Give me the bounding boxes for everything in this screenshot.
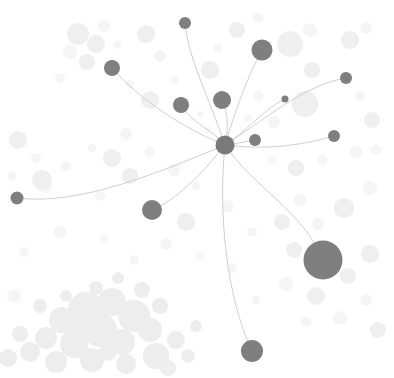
- background-halo: [8, 172, 16, 180]
- background-halo: [177, 213, 195, 231]
- cluster-blob: [160, 360, 176, 376]
- background-halo: [317, 155, 327, 165]
- background-halo: [196, 252, 204, 260]
- cluster-blob: [60, 290, 72, 302]
- background-halo: [355, 91, 365, 101]
- background-halo: [341, 31, 359, 49]
- background-halo: [145, 147, 155, 157]
- background-halo: [340, 268, 356, 284]
- background-halo: [214, 44, 222, 52]
- background-halo: [361, 245, 379, 263]
- background-halo: [370, 322, 386, 338]
- background-halo: [303, 23, 317, 37]
- background-halo: [114, 41, 122, 49]
- cluster-blob: [99, 343, 117, 361]
- graph-node[interactable]: [104, 60, 120, 76]
- graph-edge: [223, 145, 252, 351]
- background-halo: [350, 146, 362, 158]
- graph-node[interactable]: [328, 130, 340, 142]
- cluster-blob: [45, 351, 67, 373]
- background-halo: [129, 255, 139, 265]
- background-halo: [277, 31, 303, 57]
- cluster-blob: [116, 354, 136, 374]
- background-halo: [292, 91, 318, 117]
- background-halo: [197, 111, 203, 117]
- cluster-blob: [152, 298, 168, 314]
- graph-edge: [225, 136, 334, 147]
- background-halo-layer: [7, 13, 386, 338]
- graph-node[interactable]: [249, 134, 261, 146]
- cluster-blob: [89, 281, 103, 295]
- background-halo: [279, 277, 293, 291]
- cluster-blob: [35, 327, 57, 349]
- background-halo: [87, 35, 105, 53]
- background-halo: [88, 144, 96, 152]
- background-halo: [154, 50, 166, 62]
- background-halo: [307, 287, 325, 305]
- background-halo: [252, 296, 260, 304]
- background-halo: [160, 238, 172, 250]
- background-halo: [54, 226, 66, 238]
- background-halo: [201, 61, 219, 79]
- background-halo: [364, 112, 380, 128]
- background-halo: [360, 294, 372, 306]
- background-halo: [334, 198, 354, 218]
- background-halo: [274, 214, 290, 230]
- cluster-blob: [112, 272, 124, 284]
- background-halo: [7, 289, 21, 303]
- background-halo: [360, 22, 372, 34]
- graph-node-hub[interactable]: [216, 136, 235, 155]
- graph-node[interactable]: [340, 72, 352, 84]
- background-halo: [286, 242, 302, 258]
- background-halo: [103, 149, 121, 167]
- graph-node[interactable]: [142, 200, 162, 220]
- background-halo: [141, 91, 159, 109]
- graph-node[interactable]: [282, 96, 289, 103]
- cluster-blob: [181, 349, 195, 363]
- background-halo: [268, 156, 276, 164]
- cluster-blob: [12, 326, 28, 342]
- background-halo: [363, 181, 377, 195]
- background-halo: [79, 54, 95, 70]
- cluster-blob: [0, 349, 17, 367]
- background-halo: [63, 45, 77, 59]
- graph-node[interactable]: [11, 192, 24, 205]
- graph-node[interactable]: [173, 97, 189, 113]
- background-halo: [253, 13, 263, 23]
- background-halo: [171, 76, 179, 84]
- background-halo: [288, 160, 304, 176]
- graph-node[interactable]: [304, 241, 343, 280]
- background-halo: [55, 73, 65, 83]
- background-halo: [229, 22, 245, 38]
- background-halo: [192, 182, 200, 190]
- background-halo: [120, 128, 132, 140]
- graph-edge: [225, 78, 346, 145]
- network-graph-svg: [0, 0, 394, 378]
- background-halo: [100, 234, 108, 242]
- graph-node[interactable]: [252, 40, 273, 61]
- background-halo: [268, 116, 280, 128]
- graph-node[interactable]: [241, 340, 263, 362]
- background-cluster-layer: [0, 272, 202, 376]
- cluster-blob: [167, 331, 185, 349]
- background-halo: [301, 317, 311, 327]
- graph-edge: [152, 145, 225, 210]
- cluster-blob: [70, 320, 90, 340]
- background-halo: [222, 200, 234, 212]
- background-halo: [9, 131, 27, 149]
- background-halo: [98, 20, 110, 32]
- graph-node[interactable]: [179, 17, 191, 29]
- cluster-blob: [33, 299, 47, 313]
- background-halo: [19, 247, 29, 257]
- background-halo: [32, 170, 52, 190]
- background-halo: [304, 62, 320, 78]
- background-halo: [294, 194, 306, 206]
- graph-node[interactable]: [213, 91, 231, 109]
- background-halo: [247, 227, 257, 237]
- background-halo: [61, 161, 71, 171]
- background-halo: [312, 218, 324, 230]
- background-halo: [31, 153, 41, 163]
- background-halo: [244, 114, 252, 122]
- network-graph-canvas: [0, 0, 394, 378]
- cluster-blob: [138, 318, 162, 342]
